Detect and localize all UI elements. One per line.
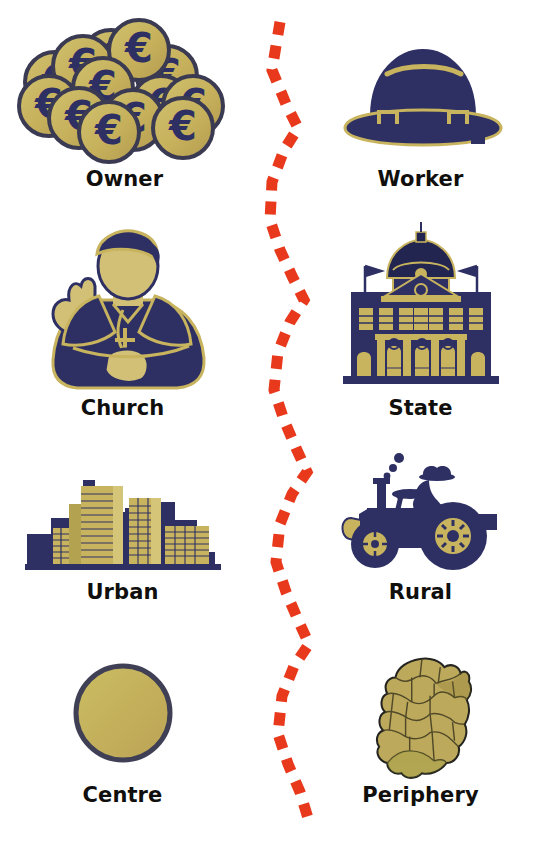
cell-state: State [300, 228, 541, 420]
label-state: State [300, 397, 541, 420]
ireland-map-icon [300, 655, 541, 780]
label-centre: Centre [0, 784, 245, 807]
cell-urban: Urban [0, 452, 245, 604]
label-urban: Urban [0, 581, 245, 604]
bishop-icon [0, 228, 245, 393]
euro-coins-icon: € [2, 14, 247, 164]
filled-circle-icon [0, 655, 245, 780]
city-skyline-icon [0, 452, 245, 577]
label-church: Church [0, 397, 245, 420]
label-rural: Rural [300, 581, 541, 604]
cell-periphery: Periphery [300, 655, 541, 807]
cell-centre: Centre [0, 655, 245, 807]
cell-rural: Rural [300, 452, 541, 604]
cell-worker: Worker [300, 14, 541, 191]
cell-church: Church [0, 228, 245, 420]
label-worker: Worker [300, 168, 541, 191]
label-owner: Owner [2, 168, 247, 191]
parliament-building-icon [300, 228, 541, 393]
cleavage-diagram: € [0, 0, 541, 850]
cell-owner: € [2, 14, 247, 191]
hard-hat-icon [300, 14, 541, 164]
label-periphery: Periphery [300, 784, 541, 807]
tractor-icon [300, 452, 541, 577]
